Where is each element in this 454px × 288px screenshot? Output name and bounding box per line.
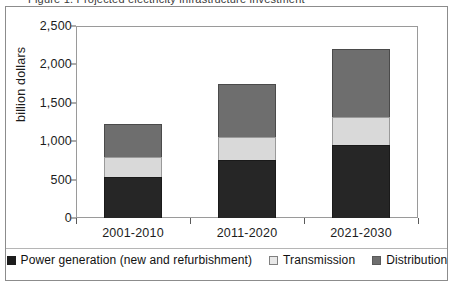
bar-segment-power (218, 160, 276, 218)
legend-swatch (7, 256, 16, 265)
x-axis-tick-label: 2011-2020 (182, 226, 312, 240)
y-axis-tick-label: 2,000 (12, 57, 72, 71)
chart-legend: Power generation (new and refurbishment)… (0, 253, 454, 267)
legend-swatch (269, 256, 278, 265)
legend-label: Transmission (283, 253, 355, 267)
figure-container: Figure 1. Projected electricity infrastr… (0, 0, 454, 288)
bar-segment-power (332, 145, 390, 218)
bar-segment-transmission (332, 117, 390, 145)
bar-2001-2010 (104, 26, 162, 218)
y-axis-tick-label: 2,500 (12, 19, 72, 33)
legend-label: Distribution (386, 253, 447, 267)
legend-label: Power generation (new and refurbishment) (21, 253, 252, 267)
bar-2011-2020 (218, 26, 276, 218)
legend-item: Distribution (372, 253, 447, 267)
legend-item: Power generation (new and refurbishment) (7, 253, 252, 267)
bar-2021-2030 (332, 26, 390, 218)
bar-segment-power (104, 177, 162, 218)
legend-swatch (372, 256, 381, 265)
bar-segment-distribution (104, 124, 162, 158)
bar-segment-transmission (104, 157, 162, 176)
x-axis-tick-mark (304, 218, 305, 224)
legend-divider (6, 248, 447, 249)
x-axis-tick-label: 2021-2030 (296, 226, 426, 240)
y-axis-tick-label: 0 (12, 211, 72, 225)
y-axis-tick-label: 1,000 (12, 134, 72, 148)
x-axis-tick-mark (418, 218, 419, 224)
bar-segment-distribution (218, 84, 276, 137)
x-axis-tick-mark (190, 218, 191, 224)
x-axis-tick-label: 2001-2010 (68, 226, 198, 240)
bar-segment-transmission (218, 137, 276, 160)
y-axis-tick-label: 1,500 (12, 96, 72, 110)
bar-segment-distribution (332, 49, 390, 117)
y-axis-tick-label: 500 (12, 173, 72, 187)
legend-item: Transmission (269, 253, 355, 267)
chart: billion dollars 05001,0001,5002,0002,500… (0, 0, 454, 288)
x-axis-tick-mark (76, 218, 77, 224)
